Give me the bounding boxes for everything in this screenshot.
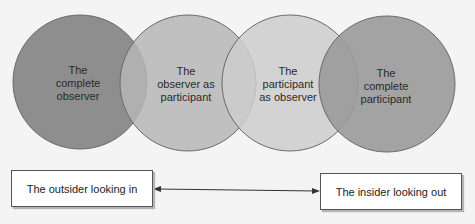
circle-label-participant-as-observer: The participant as observer (233, 65, 343, 104)
arrowhead-right-icon (312, 188, 320, 194)
outsider-label: The outsider looking in (27, 183, 138, 195)
insider-label: The insider looking out (336, 186, 447, 198)
arrowhead-left-icon (153, 186, 161, 192)
circle-label-complete-observer: The complete observer (23, 64, 133, 103)
circle-label-observer-as-participant: The observer as participant (131, 65, 241, 104)
outsider-box: The outsider looking in (11, 170, 153, 207)
continuum-arrow-line (156, 189, 317, 191)
insider-box: The insider looking out (320, 173, 462, 210)
circle-label-complete-participant: The complete participant (331, 67, 441, 106)
